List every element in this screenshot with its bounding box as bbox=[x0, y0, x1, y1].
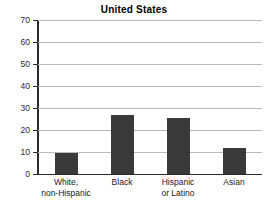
bar bbox=[111, 115, 134, 174]
bar bbox=[55, 153, 78, 174]
y-tick-label: 40 bbox=[0, 82, 30, 91]
y-tick-label: 0 bbox=[0, 170, 30, 179]
chart-title: United States bbox=[0, 4, 268, 15]
y-tick-label: 20 bbox=[0, 126, 30, 135]
y-tick-label: 70 bbox=[0, 16, 30, 25]
y-tick-label: 50 bbox=[0, 60, 30, 69]
y-tick-label: 30 bbox=[0, 104, 30, 113]
x-axis-tick-labels: White, non-HispanicBlackHispanic or Lati… bbox=[38, 177, 262, 211]
gridline bbox=[38, 42, 262, 43]
x-tick-label: Asian bbox=[200, 177, 268, 188]
y-tick-label: 10 bbox=[0, 148, 30, 157]
gridline bbox=[38, 130, 262, 131]
gridline bbox=[38, 64, 262, 65]
bar bbox=[223, 148, 246, 174]
y-axis-tick-labels: 010203040506070 bbox=[0, 0, 30, 212]
gridline bbox=[38, 20, 262, 21]
x-axis-baseline bbox=[37, 174, 262, 176]
y-tick-label: 60 bbox=[0, 38, 30, 47]
gridline bbox=[38, 108, 262, 109]
bar bbox=[167, 118, 190, 174]
gridline bbox=[38, 86, 262, 87]
plot-area bbox=[38, 20, 262, 174]
bar-chart: United States 010203040506070 White, non… bbox=[0, 0, 268, 212]
